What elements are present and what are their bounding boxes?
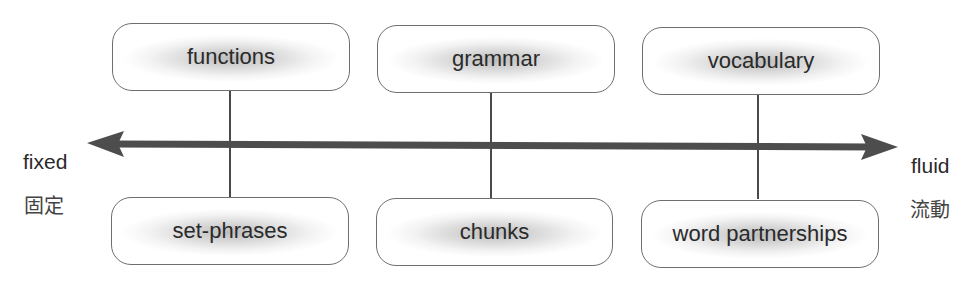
concept-label: chunks bbox=[460, 219, 530, 245]
concept-box-functions: functions bbox=[112, 23, 350, 91]
concept-label: grammar bbox=[452, 46, 540, 72]
concept-label: word partnerships bbox=[673, 221, 848, 247]
axis-label-fluid-cjk: 流動 bbox=[910, 194, 950, 223]
concept-label: set-phrases bbox=[173, 218, 288, 244]
concept-box-set-phrases: set-phrases bbox=[111, 197, 349, 265]
concept-label: functions bbox=[187, 44, 275, 70]
axis-label-fixed-cjk: 固定 bbox=[24, 190, 64, 219]
concept-box-chunks: chunks bbox=[376, 198, 613, 266]
concept-label: vocabulary bbox=[708, 48, 814, 74]
axis-label-fluid: fluid bbox=[911, 154, 950, 178]
concept-box-word-partnerships: word partnerships bbox=[641, 200, 879, 268]
axis-label-fixed: fixed bbox=[23, 150, 67, 174]
concept-box-vocabulary: vocabulary bbox=[642, 27, 880, 95]
concept-box-grammar: grammar bbox=[377, 25, 615, 93]
